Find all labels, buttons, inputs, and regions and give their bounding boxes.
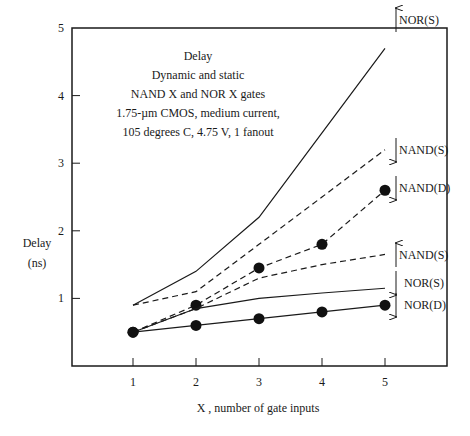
y-tick-label: 2 (58, 224, 64, 238)
y-tick-label: 1 (58, 291, 64, 305)
data-point (380, 300, 391, 311)
data-point (254, 262, 265, 273)
series-label: NAND(S) (399, 248, 448, 262)
series-labels: NOR(S)NAND(S)NAND(D)NAND(S)NOR(S)NOR(D) (396, 8, 450, 317)
series-line (133, 288, 385, 332)
series-label: NOR(S) (404, 276, 444, 290)
title-line: 1.75-µm CMOS, medium current, (116, 106, 280, 120)
title-line: 105 degrees C, 4.75 V, 1 fanout (122, 125, 274, 139)
y-tick-label: 3 (58, 156, 64, 170)
title-line: Dynamic and static (152, 68, 245, 82)
x-tick-label: 3 (256, 375, 262, 389)
x-axis-label: X , number of gate inputs (197, 401, 320, 415)
data-point (254, 313, 265, 324)
series-line (133, 190, 385, 332)
title-line: Delay (184, 49, 213, 63)
y-axis-label: Delay (23, 236, 52, 250)
data-point (317, 306, 328, 317)
y-tick-label: 5 (58, 21, 64, 35)
series-label: NOR(S) (399, 13, 439, 27)
x-tick-label: 4 (319, 375, 325, 389)
series-label: NAND(S) (399, 143, 448, 157)
chart-title: DelayDynamic and staticNAND X and NOR X … (116, 49, 280, 139)
y-tick-label: 4 (58, 89, 64, 103)
title-line: NAND X and NOR X gates (131, 87, 266, 101)
x-tick-label: 5 (382, 375, 388, 389)
y-axis-label: (ns) (28, 256, 47, 270)
data-point (128, 327, 139, 338)
delay-chart: 1234512345X , number of gate inputsDelay… (0, 0, 470, 436)
data-point (191, 320, 202, 331)
series-label: NOR(D) (404, 298, 446, 312)
x-tick-label: 2 (193, 375, 199, 389)
data-point (317, 239, 328, 250)
data-point (380, 185, 391, 196)
series-line (133, 150, 385, 305)
x-tick-label: 1 (130, 375, 136, 389)
series-label: NAND(D) (399, 181, 450, 195)
